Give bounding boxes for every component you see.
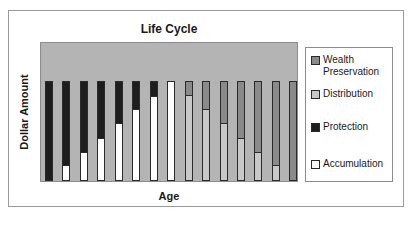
bar-10 <box>202 81 210 181</box>
legend-label: Distribution <box>323 88 373 100</box>
bar-segment-protection <box>46 82 52 180</box>
bar-segment-distribution <box>255 153 261 180</box>
bar-segment-distribution <box>273 166 279 180</box>
legend-swatch-icon <box>311 56 320 65</box>
bar-segment-accumulation <box>81 153 87 180</box>
bar-11 <box>220 81 228 181</box>
bar-segment-protection <box>133 82 139 110</box>
legend-label-line1: Wealth <box>323 54 354 65</box>
legend-label: Accumulation <box>323 158 383 170</box>
bar-4 <box>97 81 105 181</box>
bar-segment-distribution <box>238 139 244 180</box>
bar-6 <box>132 81 140 181</box>
bar-15 <box>289 81 297 181</box>
bar-5 <box>115 81 123 181</box>
y-axis-label: Dollar Amount <box>18 74 30 149</box>
bar-9 <box>185 81 193 181</box>
bar-3 <box>80 81 88 181</box>
bar-segment-accumulation <box>116 124 122 180</box>
legend-item-accumulation: Accumulation <box>311 158 383 170</box>
bar-segment-accumulation <box>151 97 157 180</box>
legend-swatch-icon <box>311 90 320 99</box>
bar-segment-protection <box>98 82 104 139</box>
bar-segment-accumulation <box>168 82 174 180</box>
bar-segment-accumulation <box>98 139 104 180</box>
legend-label-line2: Preservation <box>323 66 379 77</box>
bar-segment-wealth-preservation <box>186 82 192 96</box>
bar-2 <box>62 81 70 181</box>
chart-title: Life Cycle <box>40 22 298 36</box>
bar-segment-wealth-preservation <box>203 82 209 110</box>
legend-item-protection: Protection <box>311 121 368 133</box>
bar-segment-wealth-preservation <box>221 82 227 124</box>
bar-segment-distribution <box>186 96 192 180</box>
plot-area <box>40 42 298 182</box>
legend-item-distribution: Distribution <box>311 88 373 100</box>
bar-12 <box>237 81 245 181</box>
legend-label: Protection <box>323 121 368 133</box>
bar-14 <box>272 81 280 181</box>
bar-segment-wealth-preservation <box>290 82 296 180</box>
bar-segment-protection <box>151 82 157 97</box>
bar-1 <box>45 81 53 181</box>
legend-swatch-icon <box>311 160 320 169</box>
bar-segment-wealth-preservation <box>238 82 244 139</box>
bar-segment-wealth-preservation <box>273 82 279 166</box>
legend-label: WealthPreservation <box>323 54 379 78</box>
bar-segment-protection <box>116 82 122 124</box>
bar-segment-distribution <box>203 110 209 180</box>
bar-8 <box>167 81 175 181</box>
bar-7 <box>150 81 158 181</box>
bar-segment-accumulation <box>63 166 69 180</box>
legend-swatch-icon <box>311 123 320 132</box>
bar-segment-distribution <box>221 124 227 180</box>
legend: WealthPreservation Distribution Protecti… <box>305 47 393 182</box>
bar-segment-wealth-preservation <box>255 82 261 153</box>
bar-segment-accumulation <box>133 110 139 180</box>
legend-item-wealth-preservation: WealthPreservation <box>311 54 379 78</box>
bar-segment-protection <box>81 82 87 153</box>
x-axis-label: Age <box>40 190 298 202</box>
bar-13 <box>254 81 262 181</box>
bar-segment-protection <box>63 82 69 166</box>
